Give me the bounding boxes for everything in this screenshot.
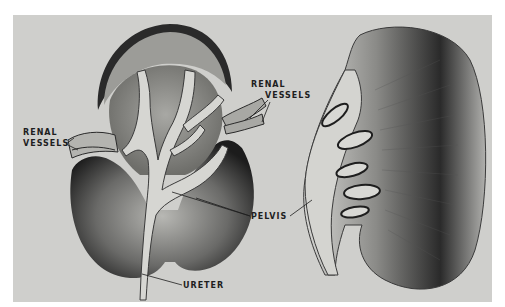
label-line: RENAL bbox=[23, 127, 69, 138]
kidney-illustration bbox=[0, 0, 505, 307]
label-pelvis: PELVIS bbox=[251, 211, 287, 222]
label-line: VESSELS bbox=[23, 138, 69, 149]
label-renal-vessels-left: RENAL VESSELS bbox=[23, 127, 69, 149]
label-line: RENAL bbox=[251, 79, 311, 90]
label-line: VESSELS bbox=[251, 90, 311, 101]
left-kidney bbox=[68, 24, 266, 300]
label-renal-vessels-right: RENAL VESSELS bbox=[251, 79, 311, 101]
label-ureter: URETER bbox=[183, 280, 224, 291]
right-kidney bbox=[304, 27, 486, 289]
